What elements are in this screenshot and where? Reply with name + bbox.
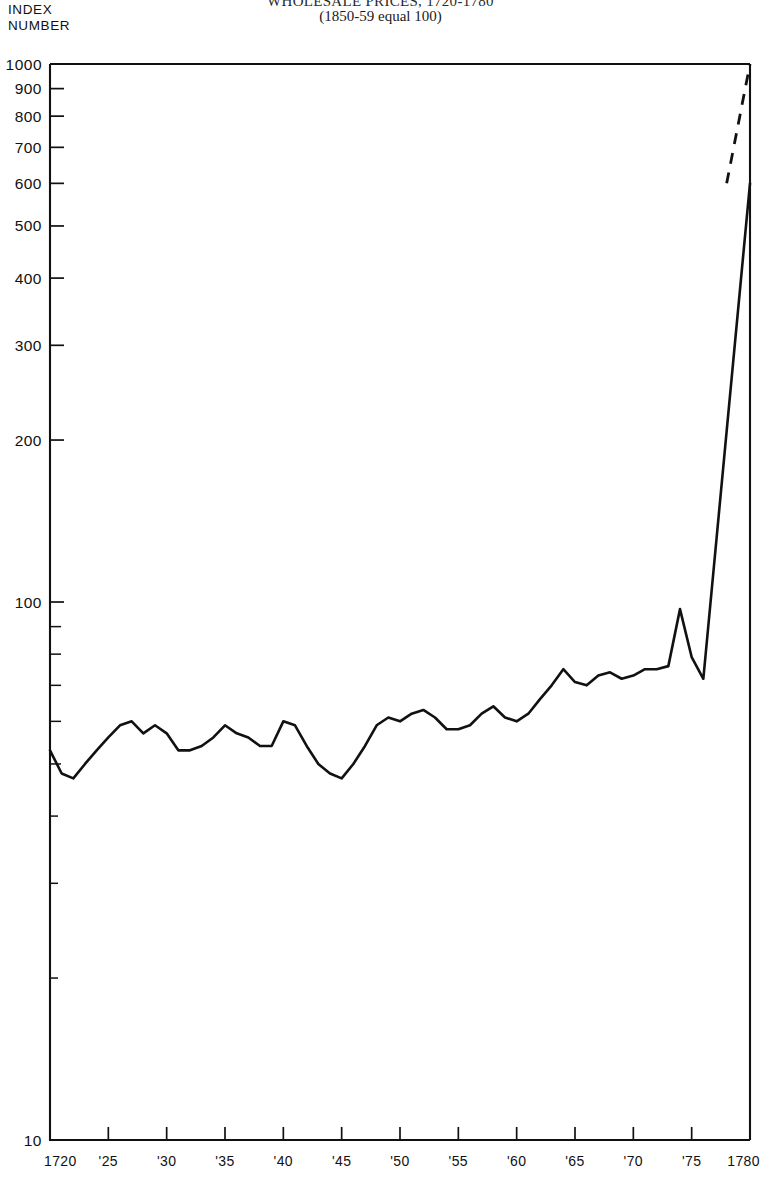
x-tick-label: '70 bbox=[624, 1153, 643, 1169]
chart-subtitle: (1850-59 equal 100) bbox=[0, 8, 761, 25]
x-tick-label: 1780 bbox=[727, 1153, 760, 1169]
y-tick-label: 500 bbox=[15, 217, 42, 234]
x-tick-label: '45 bbox=[332, 1153, 351, 1169]
x-tick-label: 1720 bbox=[44, 1153, 77, 1169]
x-tick-label: '35 bbox=[215, 1153, 234, 1169]
y-tick-label: 700 bbox=[15, 139, 42, 156]
x-tick-label: '60 bbox=[507, 1153, 526, 1169]
plot-frame bbox=[50, 64, 750, 1140]
y-tick-label: 400 bbox=[15, 270, 42, 287]
x-tick-label: '40 bbox=[274, 1153, 293, 1169]
data-series-projected bbox=[727, 64, 750, 183]
y-axis-caption-line1: INDEX bbox=[8, 2, 70, 18]
chart-figure: WHOLESALE PRICES, 1720-1780 (1850-59 equ… bbox=[0, 0, 761, 1183]
y-tick-label: 1000 bbox=[6, 56, 42, 73]
y-tick-label: 200 bbox=[15, 432, 42, 449]
y-tick-label: 900 bbox=[15, 80, 42, 97]
x-tick-label: '65 bbox=[565, 1153, 584, 1169]
data-series-group bbox=[50, 64, 750, 778]
y-tick-label: 300 bbox=[15, 337, 42, 354]
x-tick-label: '30 bbox=[157, 1153, 176, 1169]
x-tick-label: '55 bbox=[449, 1153, 468, 1169]
x-axis-ticks: 1720'25'30'35'40'45'50'55'60'65'70'75178… bbox=[44, 1127, 760, 1169]
data-series-line bbox=[50, 183, 750, 778]
y-axis-caption-line2: NUMBER bbox=[8, 18, 70, 34]
x-tick-label: '75 bbox=[682, 1153, 701, 1169]
y-tick-label: 10 bbox=[24, 1132, 42, 1149]
x-tick-label: '25 bbox=[99, 1153, 118, 1169]
chart-plot-area: 101002003004005006007008009001000 1720'2… bbox=[0, 0, 761, 1183]
y-tick-label: 100 bbox=[15, 594, 42, 611]
x-tick-label: '50 bbox=[390, 1153, 409, 1169]
y-axis-ticks: 101002003004005006007008009001000 bbox=[6, 56, 64, 1149]
y-axis-caption: INDEX NUMBER bbox=[8, 2, 70, 34]
y-tick-label: 600 bbox=[15, 175, 42, 192]
y-tick-label: 800 bbox=[15, 108, 42, 125]
